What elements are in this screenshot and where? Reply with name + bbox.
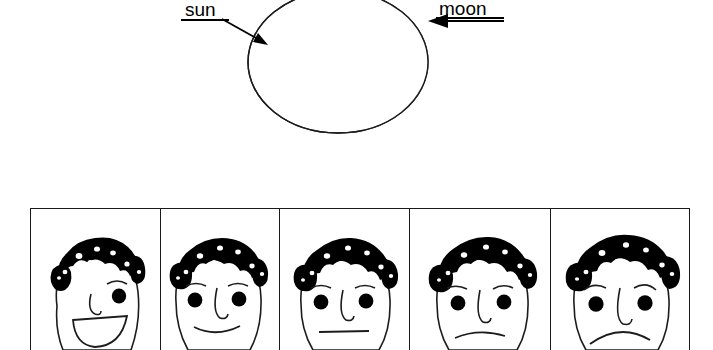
moon-label: moon: [439, 0, 487, 18]
eye-right: [358, 293, 373, 308]
face-drawing-content: [164, 226, 276, 350]
eye-left: [188, 292, 203, 307]
mouth-neutral: [319, 331, 369, 332]
face-panel-4: [410, 209, 552, 350]
face-drawing-happy: [35, 226, 155, 350]
sun-label: sun: [185, 0, 216, 19]
eye-left: [313, 294, 328, 309]
eye-right: [638, 295, 653, 311]
eye-right: [497, 294, 512, 309]
face-drawing-sad: [556, 226, 684, 350]
eye-right: [232, 291, 247, 306]
face-panel-3: [280, 209, 410, 350]
eye-right: [112, 289, 126, 304]
face-panel-2: [161, 209, 281, 350]
face-panel-5: [551, 209, 689, 350]
eclipse-diagram: sun moon: [0, 0, 713, 200]
face-drawing-neutral: [285, 226, 405, 350]
eclipse-illustration: [0, 0, 713, 200]
eye-left: [589, 296, 604, 312]
figure-root: sun moon: [0, 0, 713, 350]
eye-left: [451, 295, 466, 310]
face-drawing-unhappy: [417, 226, 543, 350]
face-panel-1: [31, 209, 161, 350]
expression-sequence-strip: [30, 208, 690, 350]
